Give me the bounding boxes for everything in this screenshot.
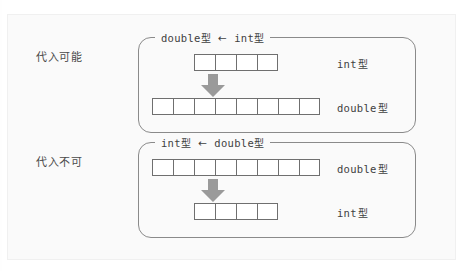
group-box-widening: double型←int型 <box>138 37 416 133</box>
memory-cell <box>278 98 299 115</box>
memory-cell <box>299 159 320 176</box>
type-label-double-widening: double型 <box>337 100 388 115</box>
memory-cell <box>152 98 173 115</box>
group1-arrow-glyph: ← <box>211 32 234 44</box>
memory-cell <box>257 159 278 176</box>
figure-page: 代入可能 代入不可 double型←int型 <box>0 0 463 271</box>
down-arrow-icon <box>200 74 226 98</box>
memory-strip-double-narrowing <box>152 159 320 176</box>
memory-cell <box>215 54 236 71</box>
group2-source-suffix: 型 <box>181 138 191 149</box>
memory-cell <box>194 54 215 71</box>
type-label-suffix: 型 <box>357 59 368 70</box>
side-label-not-assignable: 代入不可 <box>36 153 82 169</box>
type-label-text: int <box>337 207 357 219</box>
group1-source-suffix: 型 <box>201 33 211 44</box>
side-label-assignable: 代入可能 <box>36 48 82 64</box>
type-label-int-narrowing: int型 <box>337 205 368 220</box>
memory-cell <box>215 203 236 220</box>
group-title-widening: double型←int型 <box>155 30 270 45</box>
group2-source-type: int <box>161 137 181 149</box>
type-label-text: double <box>337 163 377 175</box>
memory-cell <box>215 159 236 176</box>
type-conversion-diagram: 代入可能 代入不可 double型←int型 <box>0 0 463 271</box>
memory-cell <box>257 203 278 220</box>
type-label-suffix: 型 <box>377 103 388 114</box>
memory-cell <box>278 159 299 176</box>
group2-arrow-glyph: ← <box>191 137 214 149</box>
memory-strip-double-widening <box>152 98 320 115</box>
group1-target-type: int <box>234 32 254 44</box>
group1-source-type: double <box>161 32 201 44</box>
memory-cell <box>194 159 215 176</box>
memory-cell <box>299 98 320 115</box>
memory-cell <box>236 159 257 176</box>
type-label-text: int <box>337 58 357 70</box>
group1-target-suffix: 型 <box>254 33 264 44</box>
memory-cell <box>152 159 173 176</box>
group-title-narrowing: int型←double型 <box>155 135 270 150</box>
type-label-suffix: 型 <box>357 208 368 219</box>
memory-cell <box>194 98 215 115</box>
memory-strip-int-narrowing <box>194 203 278 220</box>
memory-cell <box>236 54 257 71</box>
group2-target-type: double <box>214 137 254 149</box>
memory-cell <box>257 54 278 71</box>
group2-target-suffix: 型 <box>254 138 264 149</box>
memory-cell <box>236 203 257 220</box>
down-arrow-icon <box>200 179 226 203</box>
memory-cell <box>257 98 278 115</box>
type-label-int-widening: int型 <box>337 56 368 71</box>
memory-cell <box>215 98 236 115</box>
memory-cell <box>173 98 194 115</box>
group-box-narrowing: int型←double型 <box>138 142 416 238</box>
memory-cell <box>173 159 194 176</box>
memory-cell <box>236 98 257 115</box>
memory-strip-int-widening <box>194 54 278 71</box>
type-label-text: double <box>337 102 377 114</box>
type-label-suffix: 型 <box>377 164 388 175</box>
type-label-double-narrowing: double型 <box>337 161 388 176</box>
memory-cell <box>194 203 215 220</box>
